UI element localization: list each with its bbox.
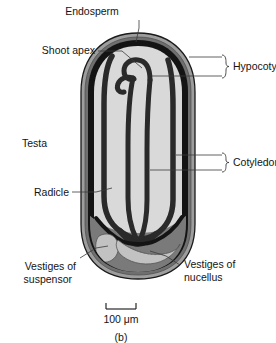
label-shoot-apex: Shoot apex [42,44,96,56]
seed-anatomy-figure: Endosperm Shoot apex Hypocotyls Testa Co… [0,0,276,343]
scale-bar-label: 100 μm [103,313,138,325]
scale-bar: 100 μm [103,303,138,325]
label-endosperm: Endosperm [65,5,119,17]
label-vestiges-suspensor-line2: suspensor [24,273,73,285]
label-cotyledons: Cotyledons [233,156,276,168]
label-radicle: Radicle [34,186,69,198]
label-hypocotyls: Hypocotyls [233,60,276,72]
label-vestiges-suspensor-line1: Vestiges of [25,260,76,272]
label-vestiges-nucellus-line1: Vestiges of [184,258,235,270]
label-testa: Testa [22,137,47,149]
figure-caption: (b) [115,331,128,343]
label-vestiges-nucellus-line2: nucellus [184,271,223,283]
cotyledons-brace [222,153,229,172]
seed-diagram-svg: Endosperm Shoot apex Hypocotyls Testa Co… [0,0,276,343]
hypocotyls-brace [222,55,229,78]
